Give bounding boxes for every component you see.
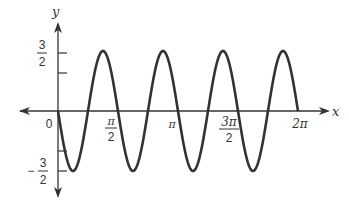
x-tick-label-pi: π xyxy=(167,118,176,131)
x-tick-label-pi-2: π 2 xyxy=(105,115,117,144)
svg-text:2: 2 xyxy=(226,131,233,145)
sine-chart: x y 3 2 − 3 2 0 π 2 π 3π 2 2π xyxy=(0,0,349,201)
x-axis xyxy=(19,107,330,115)
svg-text:3: 3 xyxy=(39,38,46,52)
x-tick-label-2pi: 2π xyxy=(291,117,309,131)
y-axis-label: y xyxy=(51,4,60,19)
y-tick-label-neg-3-2: − 3 2 xyxy=(27,156,48,187)
x-tick-label-3pi-2: 3π 2 xyxy=(219,115,239,145)
svg-text:π: π xyxy=(106,115,115,128)
x-tick-label-0: 0 xyxy=(46,117,53,131)
svg-text:2: 2 xyxy=(40,173,47,187)
svg-text:3π: 3π xyxy=(221,115,238,129)
y-axis xyxy=(54,22,62,198)
svg-text:2: 2 xyxy=(108,130,115,144)
x-axis-label: x xyxy=(332,104,340,119)
svg-text:3: 3 xyxy=(40,156,47,170)
svg-text:2: 2 xyxy=(39,55,46,69)
svg-text:−: − xyxy=(27,164,34,178)
y-tick-label-3-2: 3 2 xyxy=(37,38,47,69)
